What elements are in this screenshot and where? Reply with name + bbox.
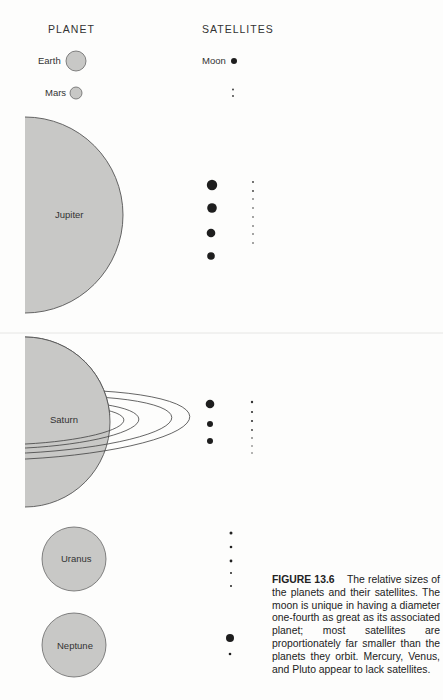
earth-label: Earth [38, 55, 61, 66]
saturn-minor-satellites [251, 401, 253, 454]
earth-planet [66, 51, 86, 71]
mars-label: Mars [45, 87, 66, 98]
caption-text: The relative sizes of the planets and th… [272, 574, 440, 675]
neptune-label: Neptune [57, 640, 93, 651]
jupiter-satellites [207, 180, 218, 260]
uranus-label: Uranus [61, 553, 92, 564]
figure-caption: FIGURE 13.6 The relative sizes of the pl… [272, 574, 440, 676]
jupiter-minor-satellites [252, 181, 254, 244]
moon-satellite [231, 58, 237, 64]
moon-label: Moon [202, 55, 226, 66]
uranus-satellites [230, 532, 233, 588]
neptune-satellites [226, 634, 234, 655]
saturn-satellites [206, 400, 215, 444]
mars-planet [70, 87, 82, 99]
figure-number: FIGURE 13.6 [272, 574, 335, 585]
jupiter-label: Jupiter [55, 209, 84, 220]
saturn-label: Saturn [50, 414, 78, 425]
